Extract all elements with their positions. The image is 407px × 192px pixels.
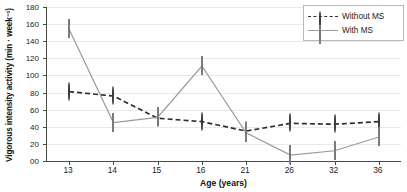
circle-marker-icon	[334, 114, 336, 133]
square-marker-icon	[289, 145, 291, 164]
y-tick-label: 120	[26, 54, 39, 63]
x-tick-label: 15	[152, 165, 161, 175]
y-tick-mark	[43, 161, 47, 162]
data-point	[68, 83, 70, 101]
x-tick-label: 13	[63, 165, 72, 175]
square-marker-icon	[378, 127, 380, 146]
x-tick-label: 26	[285, 165, 294, 175]
data-point	[201, 57, 203, 75]
legend-line-solid	[308, 30, 338, 31]
y-tick-label: 160	[26, 20, 39, 29]
legend-item-with-ms[interactable]: With MS	[308, 23, 399, 37]
y-tick-label: 140	[26, 37, 39, 46]
legend-label-with-ms: With MS	[342, 26, 373, 35]
legend-line-dashed	[308, 16, 338, 17]
data-point	[334, 115, 336, 133]
data-point	[378, 128, 380, 146]
y-tick-label: 80	[30, 88, 39, 97]
square-marker-icon	[68, 19, 70, 38]
y-tick-label: 60	[30, 105, 39, 114]
y-tick-label: 00	[30, 157, 39, 166]
x-tick-label: 32	[329, 165, 338, 175]
x-tick-label: 16	[196, 165, 205, 175]
x-tick-label: 21	[240, 165, 249, 175]
y-axis-title: Vigorous intensity activity (min · week⁻…	[4, 8, 14, 162]
circle-marker-icon	[289, 113, 291, 132]
square-marker-icon	[334, 141, 336, 160]
circle-marker-icon	[112, 86, 114, 105]
square-marker-icon	[245, 123, 247, 142]
y-tick-label: 180	[26, 3, 39, 12]
legend-swatch-with-ms	[308, 24, 338, 36]
y-axis-tick-labels: 0020406080100120140160180	[18, 0, 42, 170]
square-marker-icon	[201, 56, 203, 75]
x-tick-label: 36	[373, 165, 382, 175]
legend-swatch-without-ms	[308, 10, 338, 22]
chart-figure: Vigorous intensity activity (min · week⁻…	[0, 0, 407, 192]
x-tick-label: 14	[108, 165, 117, 175]
data-point	[157, 108, 159, 126]
legend-label-without-ms: Without MS	[342, 12, 384, 21]
legend-marker-square	[319, 26, 321, 44]
y-axis-title-container: Vigorous intensity activity (min · week⁻…	[0, 0, 18, 170]
y-tick-label: 40	[30, 122, 39, 131]
series-line-without-ms	[69, 92, 379, 131]
circle-marker-icon	[201, 112, 203, 131]
chart-legend: Without MS With MS	[303, 5, 404, 41]
data-point	[289, 114, 291, 132]
x-axis-tick-labels: 1314151621263236	[46, 164, 401, 178]
data-point	[245, 124, 247, 142]
data-point	[68, 20, 70, 38]
square-marker-icon	[157, 107, 159, 126]
data-point	[112, 114, 114, 132]
series-line-with-ms	[69, 29, 379, 155]
x-axis-title: Age (years)	[46, 178, 401, 188]
data-point	[289, 146, 291, 164]
data-point	[201, 113, 203, 131]
square-marker-icon	[112, 113, 114, 132]
data-point	[334, 142, 336, 160]
y-tick-label: 20	[30, 139, 39, 148]
legend-item-without-ms[interactable]: Without MS	[308, 9, 399, 23]
circle-marker-icon	[68, 82, 70, 101]
y-tick-label: 100	[26, 71, 39, 80]
data-point	[112, 87, 114, 105]
